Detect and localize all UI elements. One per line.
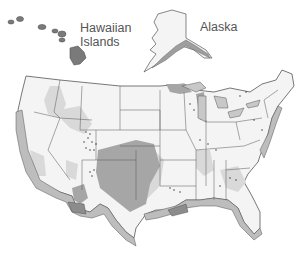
us-map (0, 0, 300, 268)
hawaii-label: Hawaiian Islands (80, 21, 131, 49)
alaska-label: Alaska (200, 20, 238, 34)
hawaii-islands (8, 17, 86, 66)
hawaii-label-line2: Islands (80, 35, 131, 49)
hawaii-label-line1: Hawaiian (80, 21, 131, 35)
contiguous-us (16, 70, 294, 246)
